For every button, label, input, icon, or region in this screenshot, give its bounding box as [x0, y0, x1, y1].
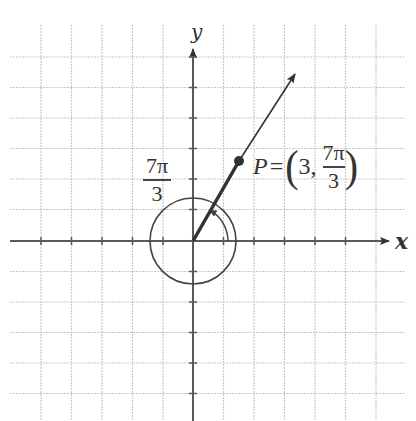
close-paren: )	[345, 141, 358, 193]
polar-diagram	[0, 0, 416, 421]
axes	[10, 49, 389, 421]
terminal-ray-segment	[193, 161, 239, 241]
point-theta: 7π 3	[323, 142, 345, 192]
point-r: 3,	[299, 153, 317, 180]
point-p	[234, 156, 244, 166]
equals-sign: =	[270, 153, 284, 180]
x-axis-label: x	[395, 228, 408, 254]
grid	[10, 25, 405, 421]
angle-arc	[211, 211, 229, 241]
point-label: P = ( 3, 7π 3 )	[253, 142, 358, 192]
angle-denominator: 3	[143, 183, 171, 205]
theta-numerator: 7π	[323, 142, 345, 164]
angle-numerator: 7π	[143, 155, 171, 177]
open-paren: (	[285, 141, 298, 193]
point-name: P	[253, 153, 268, 180]
theta-denominator: 3	[323, 170, 345, 192]
y-axis-label: y	[191, 20, 202, 44]
angle-label: 7π 3	[143, 155, 171, 205]
